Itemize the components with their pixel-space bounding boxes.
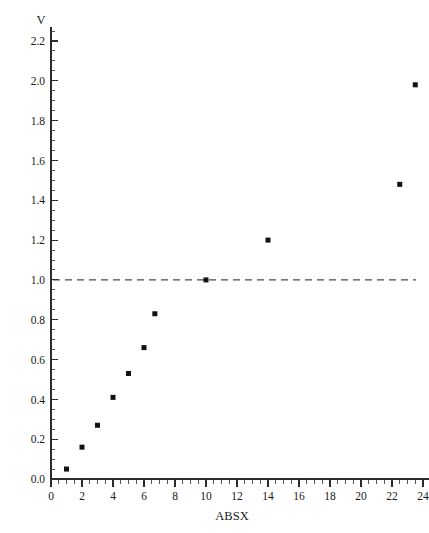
data-point-10 — [413, 82, 418, 87]
y-axis-group: 0.00.20.40.60.81.01.21.41.61.82.02.2 — [31, 27, 58, 485]
x-axis-title: ABSX — [215, 509, 248, 523]
y-tick-label-3: 0.6 — [31, 354, 46, 366]
x-tick-label-5: 10 — [200, 490, 212, 502]
x-tick-label-10: 20 — [355, 490, 367, 502]
axis-titles-group: VABSX — [36, 13, 248, 523]
data-point-0 — [64, 467, 69, 472]
data-point-4 — [126, 371, 131, 376]
plot-canvas: 0.00.20.40.60.81.01.21.41.61.82.02.2 024… — [0, 0, 429, 533]
data-point-8 — [266, 238, 271, 243]
data-point-1 — [80, 445, 85, 450]
x-tick-label-7: 14 — [262, 490, 274, 502]
y-tick-label-2: 0.4 — [31, 394, 46, 406]
data-point-2 — [95, 423, 100, 428]
x-tick-label-4: 8 — [172, 490, 178, 502]
y-tick-label-10: 2.0 — [31, 75, 46, 87]
data-point-9 — [397, 182, 402, 187]
y-tick-label-4: 0.8 — [31, 314, 46, 326]
y-tick-label-1: 0.2 — [31, 433, 46, 445]
data-point-3 — [111, 395, 116, 400]
y-tick-label-9: 1.8 — [31, 115, 46, 127]
x-tick-label-12: 24 — [417, 490, 429, 502]
scatter-chart-figure: 0.00.20.40.60.81.01.21.41.61.82.02.2 024… — [0, 0, 429, 533]
y-tick-label-0: 0.0 — [31, 473, 46, 485]
data-points-group — [64, 82, 418, 471]
data-point-6 — [152, 311, 157, 316]
x-tick-label-9: 18 — [324, 490, 336, 502]
x-tick-label-8: 16 — [293, 490, 305, 502]
x-tick-label-3: 6 — [141, 490, 147, 502]
x-tick-label-1: 2 — [79, 490, 85, 502]
data-point-7 — [204, 277, 209, 282]
x-tick-label-2: 4 — [110, 490, 116, 502]
y-tick-label-7: 1.4 — [31, 194, 46, 206]
x-tick-label-0: 0 — [48, 490, 54, 502]
x-tick-label-6: 12 — [231, 490, 243, 502]
y-tick-label-6: 1.2 — [31, 234, 46, 246]
y-tick-label-5: 1.0 — [31, 274, 46, 286]
y-tick-label-11: 2.2 — [31, 35, 46, 47]
y-tick-label-8: 1.6 — [31, 155, 46, 167]
data-point-5 — [142, 345, 147, 350]
x-axis-group: 024681012141618202224 — [48, 479, 429, 502]
x-tick-label-11: 22 — [386, 490, 398, 502]
y-axis-title: V — [36, 13, 45, 27]
